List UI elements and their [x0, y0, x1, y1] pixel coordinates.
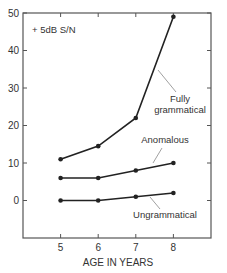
y-tick-label: 10	[8, 158, 20, 169]
series-label: grammatical	[154, 104, 206, 115]
data-point	[171, 191, 176, 196]
x-tick-label: 5	[58, 242, 64, 253]
plot-frame	[23, 13, 211, 238]
y-tick-label: 0	[13, 195, 19, 206]
data-point	[58, 176, 63, 181]
data-point	[171, 14, 176, 19]
data-point	[96, 176, 101, 181]
line-chart: 01020304050 5678 + 5dB S/N AGE IN YEARS …	[0, 0, 227, 273]
leader-line	[150, 197, 160, 209]
series-labels: FullygrammaticalAnomalousUngrammatical	[133, 70, 206, 220]
y-tick-label: 50	[8, 8, 20, 19]
leader-line	[158, 70, 176, 92]
data-point	[171, 161, 176, 166]
data-point	[58, 157, 63, 162]
y-tick-label: 30	[8, 83, 20, 94]
x-tick-label: 7	[133, 242, 139, 253]
leader-line	[153, 148, 162, 163]
series-line	[61, 193, 174, 201]
series-label: Ungrammatical	[133, 209, 197, 220]
x-tick-label: 6	[95, 242, 101, 253]
x-axis-title: AGE IN YEARS	[83, 257, 154, 268]
data-point	[134, 194, 139, 199]
annotation-snr: + 5dB S/N	[32, 24, 76, 35]
data-point	[96, 144, 101, 149]
series-label: Fully	[170, 93, 190, 104]
series-anomalous	[58, 161, 175, 181]
y-tick-label: 20	[8, 120, 20, 131]
y-tick-label: 40	[8, 45, 20, 56]
x-tick-label: 8	[171, 242, 177, 253]
data-point	[58, 198, 63, 203]
data-point	[134, 168, 139, 173]
series-ungrammatical	[58, 191, 175, 203]
data-point	[134, 116, 139, 121]
data-point	[96, 198, 101, 203]
series-line	[61, 163, 174, 178]
series-label: Anomalous	[141, 134, 189, 145]
